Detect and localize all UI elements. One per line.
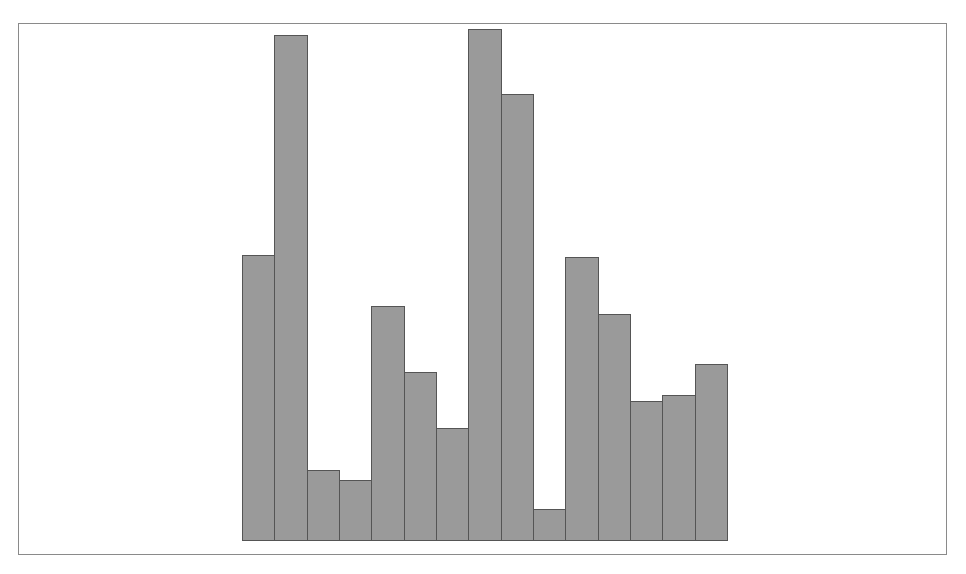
bar-4: [339, 480, 373, 541]
bar-3: [307, 470, 341, 541]
bar-13: [630, 401, 664, 541]
bar-11: [565, 257, 599, 541]
bar-15: [695, 364, 729, 541]
bar-1: [242, 255, 276, 541]
bar-6: [404, 372, 438, 541]
bar-chart-plot-area: [242, 20, 727, 541]
bar-2: [274, 35, 308, 541]
bar-5: [371, 306, 405, 541]
bar-12: [598, 314, 632, 541]
bar-8: [468, 29, 502, 541]
bar-10: [533, 509, 567, 541]
bar-7: [436, 428, 470, 541]
bar-14: [662, 395, 696, 541]
bar-9: [501, 94, 535, 541]
